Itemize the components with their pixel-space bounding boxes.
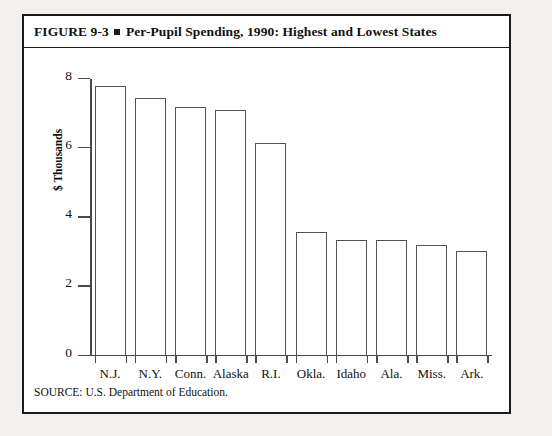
x-axis-label-miss: Miss. bbox=[417, 366, 446, 382]
x-axis-label-ark: Ark. bbox=[460, 366, 483, 382]
x-axis-label-nj: N.J. bbox=[100, 366, 121, 382]
bullet-separator-icon bbox=[114, 29, 120, 35]
x-axis-tick bbox=[336, 356, 338, 363]
source-note: SOURCE: U.S. Department of Education. bbox=[34, 386, 228, 398]
x-axis-tick bbox=[296, 356, 298, 363]
x-axis-line bbox=[90, 355, 492, 357]
bar-conn bbox=[175, 107, 206, 355]
y-axis-tick-label: 2 bbox=[65, 276, 72, 290]
y-axis-tick: 0 bbox=[78, 355, 90, 357]
bar-okla bbox=[296, 232, 327, 355]
bar-miss bbox=[416, 245, 447, 354]
bar-nj bbox=[95, 86, 126, 354]
x-axis-tick bbox=[175, 356, 177, 363]
x-axis-tick bbox=[447, 356, 449, 363]
figure-title: FIGURE 9-3Per-Pupil Spending, 1990: High… bbox=[24, 24, 437, 40]
y-axis-tick-label: 4 bbox=[65, 207, 72, 221]
x-axis-tick bbox=[376, 356, 378, 363]
x-axis-label-conn: Conn. bbox=[175, 366, 206, 382]
x-axis-label-okla: Okla. bbox=[297, 366, 326, 382]
x-axis-label-alaska: Alaska bbox=[213, 366, 249, 382]
y-axis-tick-label: 0 bbox=[65, 346, 72, 360]
x-axis-tick bbox=[327, 356, 329, 363]
x-axis-tick bbox=[255, 356, 257, 363]
x-axis-tick bbox=[367, 356, 369, 363]
figure-title-bar: FIGURE 9-3Per-Pupil Spending, 1990: High… bbox=[24, 16, 509, 48]
x-axis-tick bbox=[246, 356, 248, 363]
bar-alaska bbox=[215, 110, 246, 354]
figure-title-text: Per-Pupil Spending, 1990: Highest and Lo… bbox=[126, 24, 437, 39]
bar-ark bbox=[456, 251, 487, 355]
bar-idaho bbox=[336, 240, 367, 354]
plot-area: 02468N.J.N.Y.Conn.AlaskaR.I.Okla.IdahoAl… bbox=[90, 79, 492, 356]
x-axis-tick bbox=[126, 356, 128, 363]
y-axis-tick: 2 bbox=[78, 285, 90, 287]
bar-ri bbox=[255, 143, 286, 354]
x-axis-tick bbox=[95, 356, 97, 363]
y-axis-line bbox=[90, 79, 92, 356]
x-axis-label-ny: N.Y. bbox=[138, 366, 162, 382]
y-axis-title: $ Thousands bbox=[52, 129, 64, 191]
x-axis-tick bbox=[166, 356, 168, 363]
y-axis-tick-label: 8 bbox=[65, 69, 72, 83]
y-axis-tick: 8 bbox=[78, 78, 90, 80]
figure-frame: FIGURE 9-3Per-Pupil Spending, 1990: High… bbox=[22, 14, 511, 414]
x-axis-label-ri: R.I. bbox=[261, 366, 281, 382]
x-axis-label-idaho: Idaho bbox=[336, 366, 366, 382]
x-axis-tick bbox=[407, 356, 409, 363]
y-axis-tick: 6 bbox=[78, 147, 90, 149]
figure-number: FIGURE 9-3 bbox=[34, 24, 109, 39]
y-axis-tick-label: 6 bbox=[65, 138, 72, 152]
x-axis-label-ala: Ala. bbox=[380, 366, 402, 382]
x-axis-tick bbox=[135, 356, 137, 363]
y-axis-tick: 4 bbox=[78, 216, 90, 218]
bar-ny bbox=[135, 98, 166, 354]
x-axis-tick bbox=[206, 356, 208, 363]
x-axis-tick bbox=[456, 356, 458, 363]
bar-ala bbox=[376, 240, 407, 354]
x-axis-tick bbox=[286, 356, 288, 363]
x-axis-tick bbox=[215, 356, 217, 363]
x-axis-tick bbox=[487, 356, 489, 363]
x-axis-tick bbox=[416, 356, 418, 363]
